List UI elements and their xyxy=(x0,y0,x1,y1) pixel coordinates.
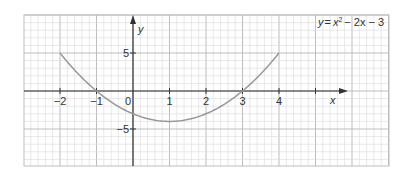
y-tick-label: −5 xyxy=(116,123,129,135)
x-axis-label: x xyxy=(329,94,336,106)
x-axis-arrow-icon xyxy=(339,88,348,94)
x-tick-label: 2 xyxy=(203,95,209,107)
equation-power: 2 xyxy=(338,16,342,23)
x-tick-label: 3 xyxy=(239,95,245,107)
y-axis-label: y xyxy=(137,23,145,35)
chart-canvas: −2−1012345−5 x y y=x2− 2x − 3 xyxy=(0,0,405,174)
y-tick-label: 5 xyxy=(123,47,129,59)
equation-equals: = xyxy=(325,16,331,28)
x-tick-label: 1 xyxy=(166,95,172,107)
equation-rest: − 2x − 3 xyxy=(344,16,384,28)
equation-label: y=x2− 2x − 3 xyxy=(317,16,384,28)
x-tick-label: −2 xyxy=(54,95,67,107)
x-tick-label: −1 xyxy=(90,95,103,107)
y-axis-arrow-icon xyxy=(130,15,136,24)
x-tick-label: 4 xyxy=(276,95,282,107)
x-tick-label: 0 xyxy=(125,95,131,107)
